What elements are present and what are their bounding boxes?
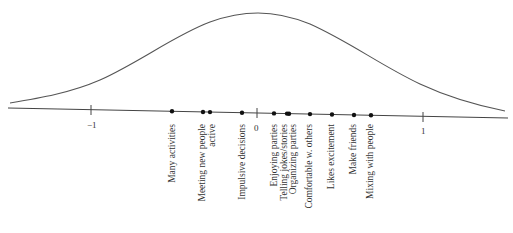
item-dot-organizing-parties: [287, 112, 291, 116]
bell-curve-diagram: −1 0 1 Many activities Meeting new peopl…: [0, 0, 513, 233]
tick-label-minus-1: −1: [87, 120, 97, 130]
normal-curve: [10, 13, 505, 111]
item-label-enjoying-parties: Enjoying parties: [269, 124, 279, 187]
item-label-meeting-new-people: Meeting new people: [197, 124, 207, 202]
item-dot-comfortable-w-others: [308, 112, 312, 116]
tick-label-0: 0: [254, 123, 259, 133]
item-label-likes-excitement: Likes excitement: [326, 124, 336, 190]
item-label-impulsive-decisions: Impulsive decisions: [237, 124, 247, 200]
item-dot-mixing-with-people: [369, 113, 373, 117]
item-dot-many-activities: [170, 109, 174, 113]
x-axis: [8, 108, 508, 118]
item-dot-likes-excitement: [330, 112, 334, 116]
item-label-make-friends: Make friends: [348, 124, 358, 175]
item-label-organizing-parties: Organizing parties: [288, 124, 298, 195]
item-label-comfortable-w-others: Comfortable w. others: [304, 124, 314, 209]
item-label-many-activities: Many activities: [167, 124, 177, 183]
tick-label-1: 1: [421, 126, 426, 136]
item-label-active: active: [207, 124, 217, 147]
item-dot-active: [208, 110, 212, 114]
item-dot-make-friends: [352, 113, 356, 117]
item-label-mixing-with-people: Mixing with people: [365, 124, 375, 199]
item-dot-enjoying-parties: [272, 111, 276, 115]
item-dot-meeting-new-people: [201, 110, 205, 114]
item-dot-impulsive-decisions: [240, 111, 244, 115]
